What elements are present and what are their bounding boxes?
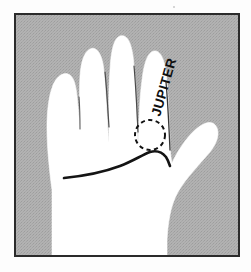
palmistry-figure: JUPITER bbox=[0, 0, 251, 272]
figure-root: JUPITER bbox=[0, 0, 251, 272]
page-speck bbox=[173, 6, 175, 8]
